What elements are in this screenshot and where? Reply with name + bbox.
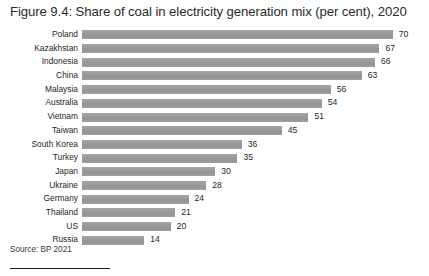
bar	[82, 71, 362, 80]
bar	[82, 208, 175, 217]
bar-value-label: 24	[195, 192, 205, 206]
bar-track: 30	[82, 165, 429, 179]
bar-value-label: 20	[177, 220, 187, 234]
bar	[82, 99, 322, 108]
bar-track: 28	[82, 179, 429, 193]
chart-title: Figure 9.4: Share of coal in electricity…	[10, 4, 407, 19]
bar-track: 56	[82, 83, 429, 97]
bar-row: Poland70	[0, 28, 429, 42]
bar-value-label: 67	[385, 42, 395, 56]
bar-track: 66	[82, 55, 429, 69]
bar-value-label: 54	[328, 96, 338, 110]
bar	[82, 58, 375, 67]
bar-track: 21	[82, 206, 429, 220]
bar-value-label: 51	[314, 110, 324, 124]
bar	[82, 30, 393, 39]
bar-track: 14	[82, 233, 429, 247]
bar-row: Japan30	[0, 165, 429, 179]
bar-row: Ukraine28	[0, 179, 429, 193]
bar-value-label: 30	[221, 165, 231, 179]
bar-category-label: Kazakhstan	[0, 42, 78, 56]
bar-track: 54	[82, 96, 429, 110]
bar-row: China63	[0, 69, 429, 83]
bar	[82, 167, 215, 176]
bar-value-label: 21	[181, 206, 191, 220]
bar-chart-plot-area: Poland70Kazakhstan67Indonesia66China63Ma…	[0, 28, 429, 247]
bar-value-label: 56	[337, 83, 347, 97]
bar-category-label: Malaysia	[0, 83, 78, 97]
bar-row: South Korea36	[0, 138, 429, 152]
bar	[82, 222, 171, 231]
bar-category-label: China	[0, 69, 78, 83]
bar-category-label: Germany	[0, 192, 78, 206]
bar-value-label: 28	[212, 179, 222, 193]
bar-row: Germany24	[0, 192, 429, 206]
figure-container: Figure 9.4: Share of coal in electricity…	[0, 0, 429, 276]
bar	[82, 195, 189, 204]
source-note: Source: BP 2021	[10, 245, 72, 254]
bar-track: 20	[82, 220, 429, 234]
bar	[82, 126, 282, 135]
bar	[82, 140, 242, 149]
bar-row: US20	[0, 220, 429, 234]
bar	[82, 44, 379, 53]
bar-value-label: 35	[243, 151, 253, 165]
bar-value-label: 66	[381, 55, 391, 69]
bar-track: 45	[82, 124, 429, 138]
bar-track: 67	[82, 42, 429, 56]
bar-row: Kazakhstan67	[0, 42, 429, 56]
bar-value-label: 63	[368, 69, 378, 83]
bar-track: 63	[82, 69, 429, 83]
bar-category-label: South Korea	[0, 138, 78, 152]
bar-category-label: Thailand	[0, 206, 78, 220]
bar-row: Turkey35	[0, 151, 429, 165]
bar-row: Taiwan45	[0, 124, 429, 138]
bar	[82, 236, 144, 245]
bar-track: 36	[82, 138, 429, 152]
bar-category-label: Indonesia	[0, 55, 78, 69]
bar-row: Indonesia66	[0, 55, 429, 69]
bar-category-label: Japan	[0, 165, 78, 179]
bar-category-label: Ukraine	[0, 179, 78, 193]
bar-track: 51	[82, 110, 429, 124]
bar-value-label: 70	[399, 28, 409, 42]
bar	[82, 154, 237, 163]
bar-category-label: Vietnam	[0, 110, 78, 124]
bar-track: 35	[82, 151, 429, 165]
bar-track: 70	[82, 28, 429, 42]
bar-category-label: Taiwan	[0, 124, 78, 138]
bar-row: Australia54	[0, 96, 429, 110]
bar-value-label: 45	[288, 124, 298, 138]
bar-value-label: 36	[248, 138, 258, 152]
bar	[82, 85, 331, 94]
bar-category-label: Turkey	[0, 151, 78, 165]
bar-track: 24	[82, 192, 429, 206]
bar	[82, 113, 308, 122]
bar	[82, 181, 206, 190]
bar-category-label: Poland	[0, 28, 78, 42]
bar-category-label: Australia	[0, 96, 78, 110]
bottom-divider	[10, 268, 110, 269]
bar-row: Thailand21	[0, 206, 429, 220]
bar-row: Vietnam51	[0, 110, 429, 124]
bar-category-label: US	[0, 220, 78, 234]
bar-value-label: 14	[150, 233, 160, 247]
bar-row: Malaysia56	[0, 83, 429, 97]
